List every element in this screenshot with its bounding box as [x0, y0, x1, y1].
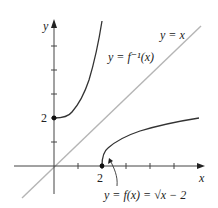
y-axis-label: y: [43, 20, 48, 32]
x-axis-label: x: [199, 172, 204, 184]
identity-label: y = x: [160, 29, 185, 41]
inverse-curve: [54, 21, 102, 118]
function-curve: [102, 118, 199, 166]
inverse-label: y = f⁻¹(x): [108, 51, 154, 63]
point-0-2: [52, 116, 57, 121]
x-axis-arrow-icon: [197, 163, 205, 169]
x-tick-label-2: 2: [97, 172, 103, 184]
point-2-0: [100, 164, 105, 169]
y-axis-arrow-icon: [51, 19, 57, 28]
y-tick-label-2: 2: [41, 112, 47, 124]
graph-canvas: [0, 0, 218, 208]
pointer-arrow-icon: [108, 158, 113, 164]
label-pointer: [110, 160, 117, 186]
function-label: y = f(x) = √x − 2: [104, 189, 186, 201]
